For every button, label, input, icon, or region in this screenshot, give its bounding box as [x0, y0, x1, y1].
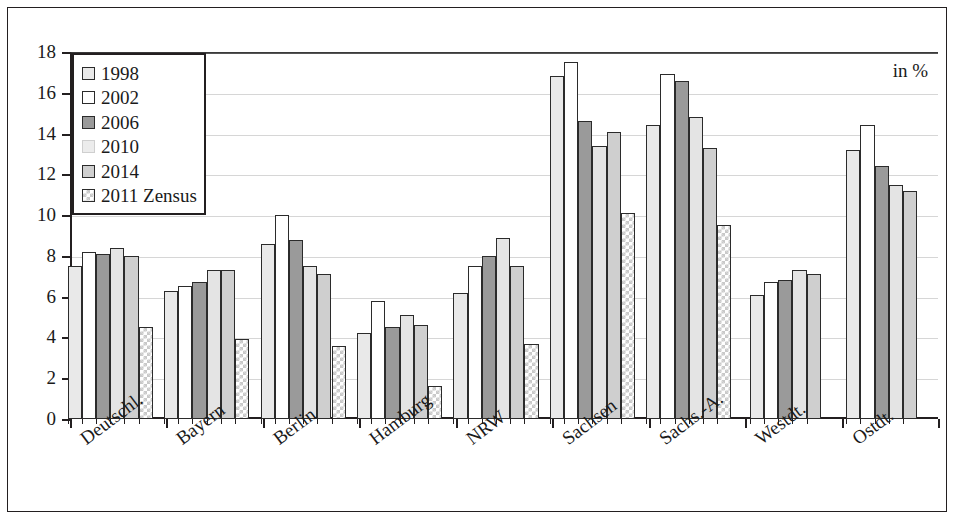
legend-item-2010: 2010	[82, 135, 200, 160]
bar	[875, 166, 889, 419]
y-axis-tick-label: 18	[16, 42, 56, 61]
bar	[564, 62, 578, 419]
bar	[82, 252, 96, 419]
x-axis-tick	[649, 419, 651, 428]
bar	[317, 274, 331, 419]
bar	[371, 301, 385, 419]
bar	[192, 282, 206, 419]
x-axis-minor-tick	[550, 419, 551, 424]
bar	[385, 327, 399, 419]
legend-item-2014: 2014	[82, 159, 200, 184]
x-axis-minor-tick	[660, 419, 661, 424]
y-axis-tick-label: 2	[16, 368, 56, 387]
y-axis-tick-label: 14	[16, 124, 56, 143]
legend-label: 2014	[101, 162, 139, 181]
x-axis-minor-tick	[164, 419, 165, 424]
bar	[807, 274, 821, 419]
y-axis-tick	[62, 134, 70, 136]
bar	[689, 117, 703, 419]
legend-swatch-icon	[82, 140, 95, 153]
bar	[178, 286, 192, 419]
x-axis-minor-tick	[903, 419, 904, 424]
x-axis-tick	[263, 419, 265, 428]
legend-swatch-icon	[82, 67, 95, 80]
bar	[468, 266, 482, 419]
bar	[221, 270, 235, 419]
x-axis-tick	[70, 419, 72, 428]
x-axis-minor-tick	[178, 419, 179, 424]
x-axis-tick	[745, 419, 747, 428]
legend-label: 1998	[101, 64, 139, 83]
x-axis-minor-tick	[453, 419, 454, 424]
y-axis-tick	[62, 174, 70, 176]
legend-label: 2006	[101, 113, 139, 132]
x-axis-minor-tick	[524, 419, 525, 424]
x-axis-minor-tick	[371, 419, 372, 424]
x-axis-minor-tick	[750, 419, 751, 424]
bar	[550, 76, 564, 419]
x-axis-minor-tick	[510, 419, 511, 424]
legend-item-2006: 2006	[82, 110, 200, 135]
x-axis-minor-tick	[717, 419, 718, 424]
bar	[607, 132, 621, 419]
legend-swatch-icon	[82, 91, 95, 104]
bar	[889, 185, 903, 419]
bar	[207, 270, 221, 419]
bar	[261, 244, 275, 419]
x-axis-tick	[166, 419, 168, 428]
x-axis-minor-tick	[235, 419, 236, 424]
bar	[96, 254, 110, 419]
bar	[68, 266, 82, 419]
x-axis-minor-tick	[68, 419, 69, 424]
bar	[289, 240, 303, 419]
x-axis-minor-tick	[468, 419, 469, 424]
bar	[332, 346, 346, 419]
legend-swatch-icon	[82, 189, 95, 202]
x-axis-minor-tick	[261, 419, 262, 424]
y-axis-tick	[62, 215, 70, 217]
legend-item-1998: 1998	[82, 61, 200, 86]
bar	[482, 256, 496, 419]
y-axis-tick	[62, 419, 70, 421]
bar	[275, 215, 289, 419]
bar	[357, 333, 371, 419]
bar	[578, 121, 592, 419]
x-axis-minor-tick	[275, 419, 276, 424]
bar	[110, 248, 124, 419]
bar	[860, 125, 874, 419]
chart-frame: 024681012141618 Deutschl.BayernBerlinHam…	[7, 7, 947, 512]
y-axis-tick-label: 0	[16, 409, 56, 428]
legend-label: 2011 Zensus	[101, 186, 197, 205]
y-axis-tick	[62, 256, 70, 258]
bar	[903, 191, 917, 419]
legend-item-2002: 2002	[82, 86, 200, 111]
y-axis-tick-label: 6	[16, 287, 56, 306]
y-axis-tick	[62, 93, 70, 95]
y-axis-tick-label: 16	[16, 83, 56, 102]
x-axis-tick	[842, 419, 844, 428]
bar	[453, 293, 467, 419]
y-axis-tick	[62, 52, 70, 54]
bar	[303, 266, 317, 419]
x-axis-minor-tick	[428, 419, 429, 424]
y-axis-tick-label: 8	[16, 246, 56, 265]
y-axis-tick-label: 4	[16, 327, 56, 346]
bar	[792, 270, 806, 419]
x-axis-tick	[552, 419, 554, 428]
bar	[621, 213, 635, 419]
x-axis-tick	[359, 419, 361, 428]
bar	[778, 280, 792, 419]
bar	[703, 148, 717, 419]
x-axis-tick	[938, 419, 940, 428]
legend: 199820022006201020142011 Zensus	[72, 53, 206, 215]
x-axis-minor-tick	[564, 419, 565, 424]
gridline	[72, 216, 938, 217]
bar	[646, 125, 660, 419]
x-axis-minor-tick	[621, 419, 622, 424]
bar	[675, 81, 689, 419]
bar	[750, 295, 764, 419]
bar	[717, 225, 731, 419]
legend-item-2011-zensus: 2011 Zensus	[82, 184, 200, 209]
unit-note: in %	[893, 60, 928, 82]
bar	[524, 344, 538, 419]
